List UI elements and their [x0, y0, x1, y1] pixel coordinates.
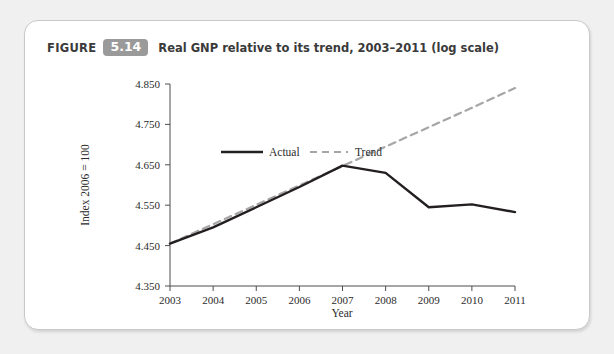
x-tick-label: 2004 — [202, 294, 225, 306]
y-axis-ticks: 4.3504.4504.5504.6504.7504.850 — [135, 78, 170, 292]
y-axis-title: Index 2006 = 100 — [79, 144, 91, 226]
x-tick-label: 2010 — [461, 294, 484, 306]
y-tick-label: 4.450 — [135, 240, 160, 252]
x-tick-label: 2007 — [332, 294, 355, 306]
x-axis-ticks: 200320042005200620072008200920102011 — [159, 286, 526, 306]
chart-series — [170, 88, 515, 244]
y-tick-label: 4.350 — [135, 280, 160, 292]
y-tick-label: 4.650 — [135, 159, 160, 171]
legend-label-actual: Actual — [269, 146, 300, 158]
x-tick-label: 2009 — [418, 294, 441, 306]
x-tick-label: 2006 — [288, 294, 311, 306]
x-tick-label: 2003 — [159, 294, 182, 306]
x-tick-label: 2008 — [375, 294, 398, 306]
x-tick-label: 2011 — [504, 294, 526, 306]
y-tick-label: 4.550 — [135, 199, 160, 211]
x-axis-title: Year — [331, 307, 352, 319]
y-axis: 4.3504.4504.5504.6504.7504.850 Index 200… — [79, 78, 170, 292]
series-line-actual — [170, 166, 515, 244]
y-tick-label: 4.850 — [135, 78, 160, 90]
legend-label-trend: Trend — [355, 146, 382, 158]
y-tick-label: 4.750 — [135, 118, 160, 130]
x-tick-label: 2005 — [245, 294, 268, 306]
figure-card: FIGURE 5.14 Real GNP relative to its tre… — [24, 20, 590, 330]
chart-legend: Actual Trend — [221, 146, 382, 158]
x-axis: 200320042005200620072008200920102011 Yea… — [159, 286, 526, 319]
line-chart: 4.3504.4504.5504.6504.7504.850 Index 200… — [25, 21, 591, 331]
